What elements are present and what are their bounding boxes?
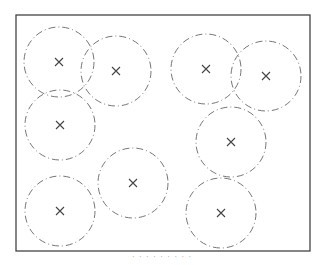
center-cross-icon xyxy=(56,121,64,129)
sensor-circle xyxy=(196,107,266,177)
sensor-circle xyxy=(81,36,151,106)
sensor-circle xyxy=(24,27,94,97)
sensor-circle xyxy=(171,34,241,104)
center-cross-icon xyxy=(55,58,63,66)
sensor-circle xyxy=(25,90,95,160)
circles-group xyxy=(24,27,301,248)
figure-caption: · · · · · · · · · xyxy=(0,253,324,262)
circle-coverage-diagram xyxy=(0,0,324,265)
sensor-circle xyxy=(231,41,301,111)
center-cross-icon xyxy=(217,209,225,217)
diagram-frame xyxy=(16,15,310,251)
sensor-circle xyxy=(98,148,168,218)
sensor-circle xyxy=(25,176,95,246)
sensor-circle xyxy=(186,178,256,248)
center-cross-icon xyxy=(129,179,137,187)
center-cross-icon xyxy=(56,207,64,215)
center-cross-icon xyxy=(262,72,270,80)
center-cross-icon xyxy=(112,67,120,75)
center-cross-icon xyxy=(227,138,235,146)
center-cross-icon xyxy=(202,65,210,73)
